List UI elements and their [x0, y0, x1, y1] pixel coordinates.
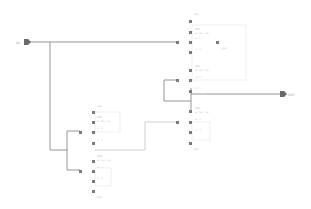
device-param: nf=1: [195, 87, 201, 90]
device-param: nf=1: [195, 48, 201, 51]
ground-label: gnd: [97, 196, 102, 199]
ground-label: gnd: [194, 148, 199, 151]
input-port[interactable]: IN: [16, 39, 31, 45]
output-port[interactable]: OUT: [280, 91, 295, 97]
device-param: m=1: [97, 166, 103, 169]
device-param: m=1: [195, 76, 201, 79]
labels: vdd PM0 w=2u l=1u m=1 nf=1 gnd PM1 w=2u …: [97, 13, 227, 199]
output-port-label: OUT: [288, 93, 295, 97]
schematic-canvas: IN OUT vdd PM0 w=2u l=1u m=1 nf=1 gnd PM…: [0, 0, 311, 209]
device-param: m=1: [97, 127, 103, 130]
device-param: w=1u l=1u: [97, 159, 111, 162]
device-param: nf=1: [97, 139, 103, 142]
device-name: NM2: [195, 107, 201, 110]
device-param: nf=1: [97, 177, 103, 180]
input-port-label: IN: [16, 41, 20, 45]
device-name: PM1: [195, 65, 201, 68]
device-name: PM0: [195, 28, 201, 31]
top-supply-label: vdd: [194, 13, 199, 16]
wires: [30, 42, 282, 170]
device-param: w=2u l=1u: [195, 69, 209, 72]
output-port-icon: [280, 91, 287, 97]
input-port-icon: [24, 39, 31, 45]
bulk-label: gnd: [222, 47, 227, 50]
device-name: NM4: [97, 155, 103, 158]
device-param: w=2u l=1u: [195, 32, 209, 35]
device-param: m=1: [195, 37, 201, 40]
device-param: m=1: [195, 118, 201, 121]
left-supply-label: vdd: [97, 105, 102, 108]
device-name: PM3: [97, 116, 103, 119]
device-param: w=1u l=1u: [195, 111, 209, 114]
device-param: nf=1: [195, 129, 201, 132]
device-param: w=2u l=1u: [97, 120, 111, 123]
